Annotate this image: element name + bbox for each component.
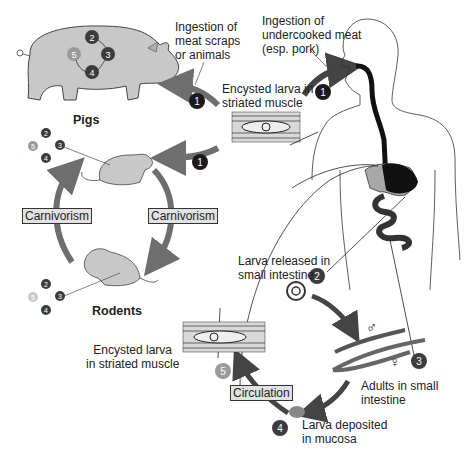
label-line: Adults in small	[361, 379, 438, 393]
svg-text:3: 3	[416, 356, 422, 367]
label-line: Encysted larva in	[222, 82, 313, 96]
label-line: small intestine	[238, 268, 330, 282]
encysted-muscle-bottom	[183, 322, 265, 352]
label-line: striated muscle	[222, 96, 313, 110]
step-5: 5	[215, 363, 231, 379]
svg-text:2: 2	[44, 130, 48, 137]
adult-worms	[333, 330, 425, 370]
label-line: undercooked meat	[262, 28, 361, 42]
label-line: Ingestion of	[175, 20, 240, 34]
circulation-box: Circulation	[230, 385, 293, 401]
rodents-label: Rodents	[92, 304, 142, 318]
rodent-upper	[82, 154, 153, 185]
label-line: or animals	[175, 48, 240, 62]
svg-text:2: 2	[44, 281, 48, 288]
svg-text:5: 5	[220, 366, 226, 377]
svg-text:4: 4	[44, 307, 48, 314]
label-line: (esp. pork)	[262, 42, 361, 56]
svg-text:3: 3	[58, 142, 62, 149]
svg-text:5: 5	[31, 294, 35, 301]
svg-text:4: 4	[44, 155, 48, 162]
svg-text:4: 4	[277, 423, 283, 434]
ingestion-scraps-label: Ingestion of meat scraps or animals	[175, 20, 240, 62]
label-line: Encysted larva	[86, 343, 179, 357]
svg-text:5: 5	[71, 50, 76, 60]
svg-text:3: 3	[105, 50, 110, 60]
adults-label: Adults in small intestine	[361, 379, 438, 407]
label-line: in striated muscle	[86, 357, 179, 371]
carnivorism-left-box: Carnivorism	[22, 208, 92, 224]
larva-deposited-label: Larva deposited in mucosa	[302, 418, 387, 446]
label-line: meat scraps	[175, 34, 240, 48]
label-line: Larva released in	[238, 254, 330, 268]
svg-text:1: 1	[320, 87, 326, 98]
label-line: intestine	[361, 393, 438, 407]
svg-text:2: 2	[89, 33, 94, 43]
step-3: 3	[411, 353, 427, 369]
arrow-to-mucosa	[310, 381, 348, 412]
female-symbol: ♀	[389, 355, 400, 369]
label-line: Larva deposited	[302, 418, 387, 432]
male-symbol: ♂	[366, 320, 377, 334]
label-line: Ingestion of	[262, 14, 361, 28]
pigs-label: Pigs	[73, 113, 99, 127]
encysted-top-label: Encysted larva in striated muscle	[222, 82, 313, 110]
rodent-upper-steps: 2 3 4 5	[28, 128, 110, 165]
svg-text:1: 1	[194, 96, 200, 107]
arrow-to-adults	[312, 296, 352, 330]
svg-text:4: 4	[89, 68, 94, 78]
rodent-lower	[84, 249, 158, 286]
svg-text:1: 1	[197, 157, 203, 168]
larva-released-label: Larva released in small intestine	[238, 254, 330, 282]
label-line: in mucosa	[302, 432, 387, 446]
digestive-tract	[356, 66, 418, 248]
encysted-muscle-top	[232, 112, 300, 142]
svg-text:3: 3	[58, 293, 62, 300]
ingestion-meat-label: Ingestion of undercooked meat (esp. pork…	[262, 14, 361, 56]
encysted-bottom-label: Encysted larva in striated muscle	[86, 343, 179, 371]
carnivorism-right-box: Carnivorism	[148, 208, 218, 224]
svg-text:5: 5	[31, 143, 35, 150]
